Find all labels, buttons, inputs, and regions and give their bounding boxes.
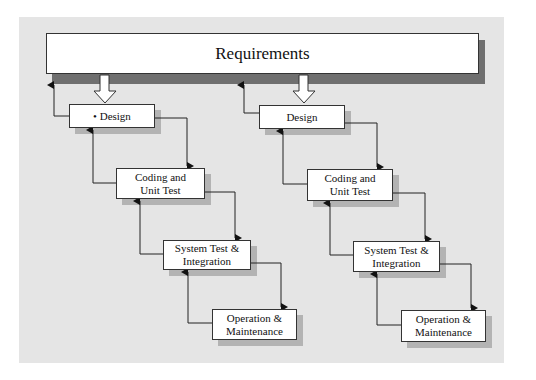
right-operation-to-system-arrow — [377, 274, 401, 325]
right-coding-to-system-arrow — [393, 193, 425, 239]
left-design-to-coding-arrow — [155, 118, 187, 166]
left-operation-box: Operation & Maintenance — [212, 309, 297, 340]
left-system-to-coding-arrow — [140, 201, 163, 254]
right-design-to-coding-arrow — [345, 123, 377, 167]
right-system-to-coding-arrow — [330, 203, 353, 255]
right-system-test-label: System Test & Integration — [364, 244, 428, 270]
right-system-to-operation-arrow — [440, 264, 471, 308]
left-system-to-operation-arrow — [251, 263, 281, 307]
right-coding-to-design-arrow — [283, 131, 307, 184]
left-system-test-box: System Test & Integration — [163, 240, 251, 270]
right-design-label: Design — [286, 111, 317, 124]
left-coding-label: Coding and Unit Test — [135, 171, 186, 197]
left-coding-to-design-arrow — [93, 130, 116, 183]
left-operation-to-system-arrow — [188, 272, 212, 323]
right-block-arrow-icon — [293, 75, 315, 103]
left-operation-label: Operation & Maintenance — [226, 312, 283, 338]
left-block-arrow-icon — [94, 75, 116, 103]
right-coding-label: Coding and Unit Test — [324, 172, 375, 198]
right-design-to-requirements-arrow — [244, 85, 259, 113]
right-design-box: Design — [259, 105, 345, 129]
left-coding-to-system-arrow — [205, 192, 235, 238]
right-operation-label: Operation & Maintenance — [415, 313, 472, 339]
right-operation-box: Operation & Maintenance — [401, 310, 486, 342]
left-coding-box: Coding and Unit Test — [116, 168, 205, 199]
right-coding-box: Coding and Unit Test — [307, 169, 393, 201]
right-system-test-box: System Test & Integration — [353, 241, 440, 272]
left-design-to-requirements-arrow — [54, 85, 69, 116]
left-design-box: • Design — [69, 104, 155, 128]
left-design-label: • Design — [93, 110, 131, 123]
left-system-test-label: System Test & Integration — [175, 242, 239, 268]
